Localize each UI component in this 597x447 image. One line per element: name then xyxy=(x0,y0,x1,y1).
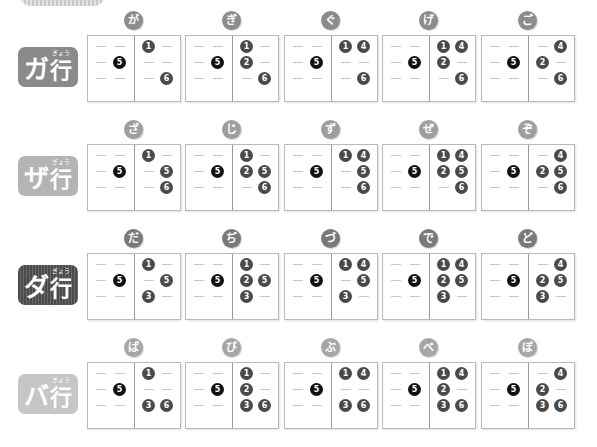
main-empty-5 xyxy=(258,383,271,396)
prefix-empty-3 xyxy=(291,181,304,194)
main-empty-3 xyxy=(536,181,549,194)
gyo-text: 行 xyxy=(50,167,72,192)
prefix-empty-1 xyxy=(389,149,402,162)
cell-divider xyxy=(134,254,135,319)
main-empty-2 xyxy=(339,274,352,287)
main-dot-5: 5 xyxy=(554,165,567,178)
braille-dot-icon: 5 xyxy=(455,274,468,287)
main-dot-6: 6 xyxy=(455,399,468,412)
empty-dash-icon xyxy=(293,405,303,406)
braille-dot-icon: 3 xyxy=(536,399,549,412)
empty-dash-icon xyxy=(293,373,303,374)
prefix-empty-4 xyxy=(507,367,520,380)
braille-box: 51236 xyxy=(185,362,279,429)
main-dot-1: 1 xyxy=(142,258,155,271)
empty-dash-icon xyxy=(312,155,322,156)
prefix-empty-1 xyxy=(192,367,205,380)
prefix-empty-1 xyxy=(389,258,402,271)
braille-cell: 512456ぜ xyxy=(382,144,475,210)
prefix-empty-6 xyxy=(507,290,520,303)
empty-dash-icon xyxy=(213,187,223,188)
main-dot-4: 4 xyxy=(455,149,468,162)
braille-dot-icon: 5 xyxy=(554,274,567,287)
braille-cell: 52456ぞ xyxy=(481,144,574,210)
empty-dash-icon xyxy=(96,389,106,390)
empty-dash-icon xyxy=(341,187,351,188)
braille-dot-icon: 5 xyxy=(258,274,271,287)
prefix-empty-6 xyxy=(310,290,323,303)
empty-dash-icon xyxy=(162,373,172,374)
empty-dash-icon xyxy=(359,389,369,390)
empty-dash-icon xyxy=(293,296,303,297)
empty-dash-icon xyxy=(391,296,401,297)
main-dot-2: 2 xyxy=(536,383,549,396)
prefix-dot-5: 5 xyxy=(408,383,421,396)
main-dot-4: 4 xyxy=(357,258,370,271)
main-dot-4: 4 xyxy=(357,149,370,162)
empty-dash-icon xyxy=(115,187,125,188)
braille-dot-icon: 3 xyxy=(339,399,352,412)
empty-dash-icon xyxy=(457,389,467,390)
empty-dash-icon xyxy=(556,296,566,297)
braille-box: 5136 xyxy=(87,362,181,429)
empty-dash-icon xyxy=(391,155,401,156)
empty-dash-icon xyxy=(538,155,548,156)
prefix-empty-4 xyxy=(408,149,421,162)
prefix-empty-3 xyxy=(192,290,205,303)
braille-dot-icon: 5 xyxy=(554,165,567,178)
braille-dot-icon: 6 xyxy=(258,181,271,194)
prefix-empty-3 xyxy=(291,290,304,303)
prefix-empty-1 xyxy=(291,367,304,380)
prefix-empty-1 xyxy=(389,367,402,380)
braille-dot-icon: 4 xyxy=(455,258,468,271)
prefix-empty-2 xyxy=(94,165,107,178)
prefix-empty-4 xyxy=(310,149,323,162)
gyo-label: ぎょう行 xyxy=(50,273,72,305)
prefix-empty-6 xyxy=(113,181,126,194)
prefix-empty-2 xyxy=(291,274,304,287)
prefix-empty-4 xyxy=(507,258,520,271)
prefix-empty-4 xyxy=(408,367,421,380)
prefix-dot-5: 5 xyxy=(211,165,224,178)
empty-dash-icon xyxy=(293,264,303,265)
prefix-dot-5: 5 xyxy=(507,165,520,178)
empty-dash-icon xyxy=(538,264,548,265)
main-dot-1: 1 xyxy=(142,367,155,380)
empty-dash-icon xyxy=(509,296,519,297)
braille-dot-icon: 5 xyxy=(113,274,126,287)
row-label: バぎょう行 xyxy=(18,374,78,414)
main-dot-3: 3 xyxy=(142,399,155,412)
main-dot-1: 1 xyxy=(240,149,253,162)
row-kana-label: バ xyxy=(24,380,49,414)
braille-dot-icon: 5 xyxy=(160,274,173,287)
kana-badge: で xyxy=(419,229,438,248)
empty-dash-icon xyxy=(293,155,303,156)
prefix-dot-5: 5 xyxy=(211,274,224,287)
braille-dot-icon: 5 xyxy=(310,274,323,287)
prefix-empty-3 xyxy=(192,399,205,412)
prefix-empty-3 xyxy=(488,290,501,303)
cell-divider xyxy=(331,145,332,210)
prefix-dot-5: 5 xyxy=(507,383,520,396)
braille-dot-icon: 1 xyxy=(437,367,450,380)
empty-dash-icon xyxy=(115,264,125,265)
main-empty-2 xyxy=(339,165,352,178)
main-dot-3: 3 xyxy=(240,399,253,412)
braille-dot-icon: 6 xyxy=(258,399,271,412)
prefix-empty-2 xyxy=(94,383,107,396)
prefix-empty-2 xyxy=(389,383,402,396)
prefix-empty-1 xyxy=(192,149,205,162)
prefix-empty-6 xyxy=(408,290,421,303)
kana-badge: じ xyxy=(222,120,241,139)
main-dot-5: 5 xyxy=(357,274,370,287)
main-dot-3: 3 xyxy=(339,399,352,412)
empty-dash-icon xyxy=(490,171,500,172)
main-dot-6: 6 xyxy=(455,181,468,194)
braille-dot-icon: 5 xyxy=(408,165,421,178)
prefix-empty-2 xyxy=(488,165,501,178)
empty-dash-icon xyxy=(115,373,125,374)
prefix-empty-6 xyxy=(113,290,126,303)
braille-dot-icon: 4 xyxy=(357,149,370,162)
kana-badge: ぢ xyxy=(222,229,241,248)
empty-dash-icon xyxy=(144,187,154,188)
